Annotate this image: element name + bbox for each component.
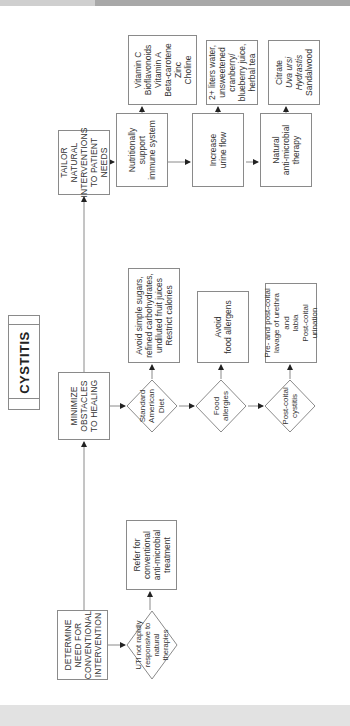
- step-minimize-label: MINIMIZE OBSTACLES TO HEALING: [69, 380, 99, 432]
- action-avoid-allergens: Avoid food allergens: [197, 291, 249, 363]
- herb-hydrastis: Hydrastis: [294, 55, 304, 90]
- decision-sad-label: Standard American Diet: [126, 379, 178, 433]
- step-nutritional-label: Nutritionally support immune system: [127, 120, 157, 180]
- decision-food-allergies: Food allergies: [195, 379, 247, 433]
- step-determine-need: DETERMINE NEED FOR CONVENTIONAL INTERVEN…: [57, 610, 108, 680]
- step-natural-anti-microbial: Natural anti-microbial therapy: [260, 113, 312, 187]
- action-avoid-simple-sugars: Avoid simple sugars, refined carbohydrat…: [128, 268, 180, 363]
- detail-nutrient-list: Vitamin C Bioflavonoids Vitamin A Beta-c…: [128, 35, 197, 105]
- step-increase-urine-flow: Increase urine flow: [192, 113, 244, 187]
- page-title: CYSTITIS: [17, 331, 32, 394]
- step-determine-label: DETERMINE NEED FOR CONVENTIONAL INTERVEN…: [63, 611, 103, 679]
- decision-post-coital-cystitis: Post-coital cystitis: [264, 379, 316, 433]
- step-tailor-interventions: TAILOR NATURAL INTERVENTIONS TO PATIENT …: [58, 130, 110, 195]
- step-nutritional-support: Nutritionally support immune system: [116, 113, 168, 187]
- step-tailor-label: TAILOR NATURAL INTERVENTIONS TO PATIENT …: [59, 127, 109, 197]
- detail-fluid-intake: 2+ liters water, unsweetened cranberry/ …: [206, 40, 258, 105]
- step-minimize-obstacles: MINIMIZE OBSTACLES TO HEALING: [58, 372, 110, 440]
- decision-post-coital-label: Post-coital cystitis: [264, 379, 316, 433]
- action-diet-label: Avoid simple sugars, refined carbohydrat…: [134, 273, 174, 358]
- decision-standard-american-diet: Standard American Diet: [126, 379, 178, 433]
- cystitis-flowchart: CYSTITIS DETERMINE NEED FOR CONVENTIONAL…: [0, 0, 350, 726]
- action-allergens-label: Avoid food allergens: [213, 300, 233, 353]
- decision-uti-label: UTI not rapidly responsive to natural th…: [126, 610, 178, 680]
- step-anti-microbial-label: Natural anti-microbial therapy: [271, 125, 301, 176]
- page-frame: CYSTITIS DETERMINE NEED FOR CONVENTIONAL…: [0, 0, 350, 726]
- detail-herbal-agents: Citrate Uva ursi Hydrastis Sandalwood: [268, 40, 320, 105]
- action-refer-label: Refer for conventional anti-microbial tr…: [132, 530, 172, 581]
- title-box: CYSTITIS: [8, 315, 40, 410]
- action-lavage-label: Pre- and post-coital lavage of urethra a…: [263, 286, 320, 360]
- action-post-coital-lavage: Pre- and post-coital lavage of urethra a…: [265, 283, 317, 363]
- herb-citrate: Citrate: [274, 60, 284, 85]
- decision-uti-not-responsive: UTI not rapidly responsive to natural th…: [126, 610, 178, 680]
- decision-allergies-label: Food allergies: [195, 379, 247, 433]
- step-urine-flow-label: Increase urine flow: [208, 132, 228, 168]
- herb-uva-ursi: Uva ursi: [284, 57, 294, 88]
- action-refer-conventional: Refer for conventional anti-microbial tr…: [126, 520, 177, 590]
- herb-sandalwood: Sandalwood: [304, 49, 314, 96]
- detail-nutrients-label: Vitamin C Bioflavonoids Vitamin A Beta-c…: [133, 43, 193, 96]
- detail-fluids-label: 2+ liters water, unsweetened cranberry/ …: [207, 44, 257, 102]
